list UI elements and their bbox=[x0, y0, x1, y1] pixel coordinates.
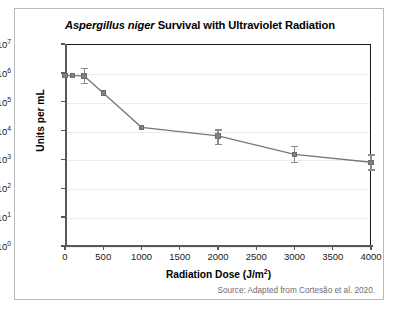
x-tick-mark bbox=[179, 246, 180, 250]
y-tick-mark bbox=[61, 130, 65, 131]
x-axis-title: Radiation Dose (J/m2) bbox=[65, 268, 372, 280]
y-axis-title: Units per mL bbox=[35, 51, 46, 191]
gridline bbox=[65, 103, 370, 104]
plot-wrapper: 100101102103104105106107 050010001500200… bbox=[15, 9, 385, 301]
x-axis-title-tail: ) bbox=[268, 269, 271, 280]
x-tick-mark bbox=[103, 246, 104, 250]
x-tick-mark bbox=[332, 246, 333, 250]
gridline bbox=[65, 74, 370, 75]
plot-area bbox=[65, 44, 371, 246]
y-axis-line bbox=[65, 44, 67, 246]
x-tick-mark bbox=[141, 246, 142, 250]
y-tick-mark bbox=[61, 188, 65, 189]
y-tick-label: 106 bbox=[0, 68, 11, 79]
y-tick-mark bbox=[61, 72, 65, 73]
x-tick-mark bbox=[64, 246, 65, 250]
x-tick-mark bbox=[256, 246, 257, 250]
y-tick-mark bbox=[61, 43, 65, 44]
x-axis-line bbox=[65, 245, 373, 247]
y-tick-label: 104 bbox=[0, 126, 11, 137]
x-tick-mark bbox=[294, 246, 295, 250]
y-tick-label: 100 bbox=[0, 241, 11, 252]
gridline bbox=[65, 218, 370, 219]
x-axis-title-base: Radiation Dose (J/m bbox=[166, 269, 264, 280]
y-tick-label: 103 bbox=[0, 154, 11, 165]
x-tick-mark bbox=[370, 246, 371, 250]
y-tick-mark bbox=[61, 159, 65, 160]
x-tick-label: 4000 bbox=[346, 252, 396, 262]
y-tick-label: 101 bbox=[0, 212, 11, 223]
y-tick-mark bbox=[61, 216, 65, 217]
y-tick-mark bbox=[61, 101, 65, 102]
y-tick-label: 107 bbox=[0, 39, 11, 50]
source-note: Source: Adapted from Cortesão et al. 202… bbox=[218, 286, 375, 295]
x-tick-mark bbox=[217, 246, 218, 250]
figure-card: Aspergillus niger Survival with Ultravio… bbox=[14, 8, 384, 300]
gridline bbox=[65, 132, 370, 133]
gridline bbox=[65, 160, 370, 161]
y-tick-label: 105 bbox=[0, 97, 11, 108]
gridline bbox=[65, 189, 370, 190]
y-tick-label: 102 bbox=[0, 183, 11, 194]
